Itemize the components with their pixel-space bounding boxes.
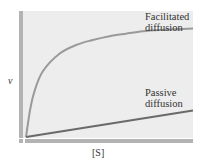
passive-label-line2: diffusion	[145, 98, 183, 109]
chart-figure: Facilitated diffusion Passive diffusion …	[0, 0, 207, 164]
axis-corner	[19, 139, 23, 143]
y-axis-label: v	[8, 75, 13, 86]
x-axis	[25, 139, 193, 143]
passive-label-line1: Passive	[145, 87, 177, 98]
x-axis-label: [S]	[92, 147, 104, 158]
facilitated-label-line2: diffusion	[145, 22, 183, 33]
y-axis	[19, 11, 23, 138]
facilitated-label-line1: Facilitated	[145, 11, 190, 22]
